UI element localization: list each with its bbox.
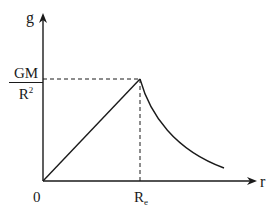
- re-base: R: [134, 189, 144, 205]
- gm-numerator: GM: [9, 66, 43, 83]
- r2-denominator: R2: [9, 83, 43, 102]
- x-axis-label: r: [260, 174, 265, 190]
- y-axis-label: g: [26, 10, 34, 26]
- linear-segment: [43, 79, 140, 181]
- graph-canvas: [0, 0, 278, 213]
- re-subscript: e: [144, 197, 148, 207]
- r-exponent: 2: [29, 85, 34, 95]
- inverse-square-curve: [140, 79, 224, 168]
- re-label: Re: [134, 190, 148, 207]
- r-base: R: [19, 86, 29, 102]
- gm-over-r2-label: GM R2: [9, 66, 43, 102]
- origin-label: 0: [33, 190, 41, 205]
